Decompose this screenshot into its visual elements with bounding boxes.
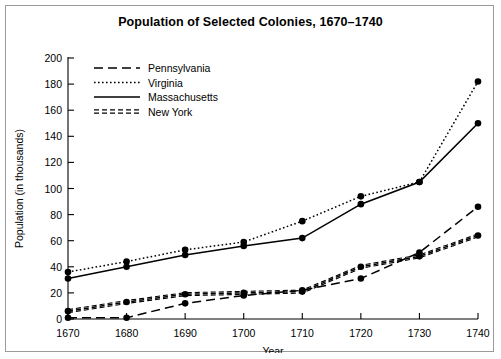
data-point-massachusetts-1740 [475,120,482,127]
y-axis-label: Population (in thousands) [13,129,25,248]
data-point-pennsylvania-1720 [358,275,365,282]
data-point-massachusetts-1690 [182,252,189,259]
legend-label-new-york: New York [148,106,193,118]
data-point-pennsylvania-1680 [123,314,130,321]
data-point-massachusetts-1730 [416,179,423,186]
x-tick-label: 1700 [232,327,256,339]
y-tick-label: 60 [50,235,62,247]
x-tick-label: 1680 [115,327,139,339]
legend-label-massachusetts: Massachusetts [148,91,218,103]
data-point-massachusetts-1670 [65,275,72,282]
x-tick-label: 1690 [173,327,197,339]
data-point-new-york-1680 [123,299,130,306]
series-line-new-york [68,235,478,311]
data-point-massachusetts-1700 [240,243,247,250]
y-tick-label: 80 [50,209,62,221]
y-tick-label: 100 [44,183,62,195]
y-tick-label: 140 [44,130,62,142]
data-point-massachusetts-1680 [123,264,130,271]
y-tick-label: 0 [56,313,62,325]
data-point-new-york-1690 [182,291,189,298]
legend-label-virginia: Virginia [148,77,183,89]
data-point-pennsylvania-1670 [65,314,72,321]
data-point-virginia-1740 [475,78,482,85]
x-tick-label: 1720 [349,327,373,339]
data-point-new-york-1670 [65,308,72,315]
data-point-pennsylvania-1740 [475,203,482,210]
data-point-virginia-1670 [65,269,72,276]
y-tick-label: 200 [44,52,62,64]
data-point-massachusetts-1720 [358,201,365,208]
data-point-pennsylvania-1690 [182,300,189,307]
y-tick-label: 180 [44,78,62,90]
data-point-new-york-1740 [475,232,482,239]
y-tick-label: 160 [44,104,62,116]
x-tick-label: 1670 [56,327,80,339]
data-point-new-york-1700 [240,290,247,297]
y-tick-label: 120 [44,156,62,168]
chart-plot-area: 0204060801001201401601802001670168016901… [6,6,495,353]
series-line-new-york-rail [68,234,478,310]
legend-label-pennsylvania: Pennsylvania [148,62,211,74]
population-line-chart: 0204060801001201401601802001670168016901… [6,6,495,353]
data-point-massachusetts-1710 [299,235,306,242]
y-tick-label: 40 [50,261,62,273]
data-point-new-york-1730 [416,253,423,260]
x-tick-label: 1740 [466,327,490,339]
data-point-virginia-1710 [299,218,306,225]
data-point-virginia-1720 [358,193,365,200]
x-axis-label: Year [262,345,284,353]
x-tick-label: 1710 [291,327,315,339]
x-tick-label: 1730 [408,327,432,339]
image-border: Population of Selected Colonies, 1670–17… [5,5,494,352]
data-point-new-york-1720 [358,264,365,271]
y-tick-label: 20 [50,287,62,299]
data-point-new-york-1710 [299,288,306,295]
